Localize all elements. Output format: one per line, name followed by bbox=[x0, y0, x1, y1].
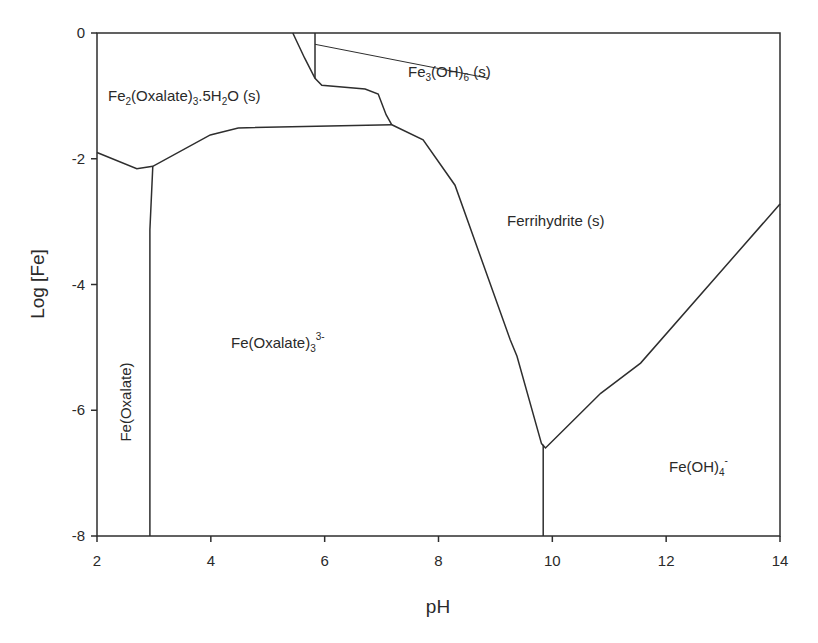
label-fe-oxalate: Fe(Oxalate) bbox=[117, 362, 134, 441]
y-tick-label: -2 bbox=[72, 150, 85, 167]
label-fe-oxalate3: Fe(Oxalate)33- bbox=[231, 331, 325, 354]
y-tick-label: -4 bbox=[72, 276, 85, 293]
boundary-line bbox=[293, 33, 392, 125]
y-tick-label: -6 bbox=[72, 401, 85, 418]
boundary-line bbox=[97, 125, 392, 169]
chart: 0-2-4-6-8 2468101214 pH Log [Fe] Fe2(Oxa… bbox=[0, 0, 818, 643]
y-axis-ticks: 0-2-4-6-8 bbox=[72, 24, 97, 544]
x-tick-label: 6 bbox=[320, 552, 328, 569]
label-fe3-oh6-solid: Fe3(OH)6 (s) bbox=[408, 63, 491, 83]
y-tick-label: -8 bbox=[72, 527, 85, 544]
label-ferrihydrite: Ferrihydrite (s) bbox=[507, 212, 605, 229]
x-tick-label: 4 bbox=[207, 552, 215, 569]
boundary-line bbox=[392, 125, 780, 448]
boundary-line bbox=[150, 166, 153, 536]
label-fe-oh4: Fe(OH)4- bbox=[669, 455, 728, 478]
x-axis-title: pH bbox=[426, 596, 450, 617]
x-tick-label: 12 bbox=[658, 552, 675, 569]
x-tick-label: 10 bbox=[544, 552, 561, 569]
x-axis-ticks: 2468101214 bbox=[93, 536, 789, 569]
y-tick-label: 0 bbox=[77, 24, 85, 41]
y-axis-title: Log [Fe] bbox=[27, 249, 48, 319]
x-tick-label: 14 bbox=[772, 552, 789, 569]
label-fe2-oxalate-solid: Fe2(Oxalate)3.5H2O (s) bbox=[108, 87, 261, 107]
x-tick-label: 8 bbox=[434, 552, 442, 569]
x-tick-label: 2 bbox=[93, 552, 101, 569]
